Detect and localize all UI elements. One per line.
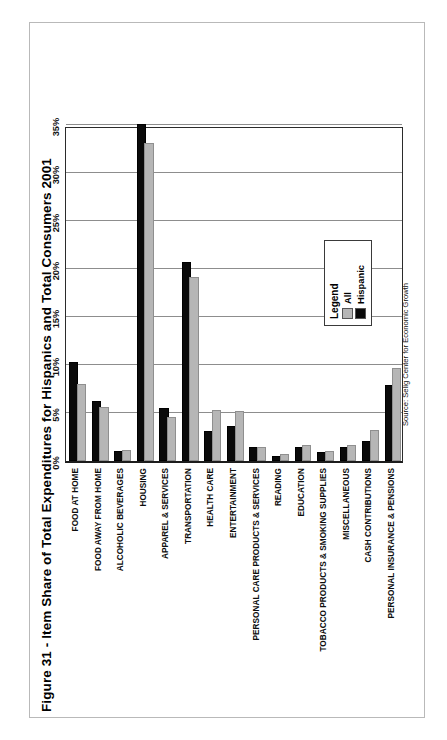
legend-title: Legend	[329, 247, 340, 319]
bar-group	[156, 128, 179, 461]
bar-all	[235, 411, 244, 461]
category-label: TOBACCO PRODUCTS & SMOKING SUPPLIES	[319, 468, 328, 652]
bar-all	[189, 277, 198, 461]
legend-item: Hispanic	[355, 247, 366, 319]
bar-group	[179, 128, 202, 461]
category-label: PERSONAL INSURANCE & PENSIONS	[387, 468, 396, 619]
bar-group	[134, 128, 157, 461]
x-tick-label: 5%	[51, 408, 61, 421]
x-tick-label: 20%	[51, 262, 61, 281]
category-label: ENTERTAINMENT	[229, 468, 238, 538]
bar-group	[246, 128, 269, 461]
category-label: TRANSPORTATION	[184, 468, 193, 544]
bar-group	[201, 128, 224, 461]
category-label: PERSONAL CARE PRODUCTS & SERVICES	[252, 468, 261, 640]
rotated-figure-stage: Figure 31 - Item Share of Total Expendit…	[29, 22, 425, 718]
x-tick-label: 10%	[51, 358, 61, 377]
bar-group	[291, 128, 314, 461]
x-axis-tick-labels: 0%5%10%15%20%25%30%35%	[51, 127, 64, 463]
bar-all	[257, 447, 266, 461]
bar-all	[347, 445, 356, 461]
category-label: EDUCATION	[297, 468, 306, 517]
bar-all	[122, 450, 131, 461]
bar-all	[99, 407, 108, 461]
bar-group	[111, 128, 134, 461]
category-label: READING	[274, 468, 283, 506]
bar-all	[302, 445, 311, 461]
gridline	[66, 124, 402, 125]
bar-all	[280, 454, 289, 461]
bar-all	[325, 451, 334, 461]
category-label: ALCOHOLIC BEVERAGES	[116, 468, 125, 571]
category-label: FOOD AWAY FROM HOME	[94, 468, 103, 571]
category-label: CASH CONTRIBUTIONS	[364, 468, 373, 563]
x-tick-label: 35%	[51, 118, 61, 137]
bar-group	[269, 128, 292, 461]
x-tick-label: 15%	[51, 310, 61, 329]
x-tick-label: 30%	[51, 166, 61, 185]
source-note: Source: Selig Center for Economic Growth	[401, 283, 410, 426]
x-tick-label: 0%	[51, 456, 61, 469]
legend-items: AllHispanic	[342, 247, 366, 319]
legend-label: All	[342, 292, 353, 304]
bar-all	[212, 410, 221, 461]
category-label: APPAREL & SERVICES	[161, 468, 170, 559]
bar-group	[66, 128, 89, 461]
bar-group	[89, 128, 112, 461]
category-label: FOOD AT HOME	[71, 468, 80, 531]
category-label: HOUSING	[139, 468, 148, 507]
legend-label: Hispanic	[355, 265, 366, 304]
category-label: MISCELLANEOUS	[342, 468, 351, 540]
category-axis-labels: FOOD AT HOMEFOOD AWAY FROM HOMEALCOHOLIC…	[65, 468, 403, 718]
legend-swatch-icon	[342, 308, 353, 319]
x-tick-label: 25%	[51, 214, 61, 233]
bar-all	[167, 417, 176, 461]
legend-swatch-icon	[355, 308, 366, 319]
bar-all	[144, 143, 153, 461]
bar-all	[77, 384, 86, 461]
bar-all	[370, 430, 379, 461]
legend-item: All	[342, 247, 353, 319]
legend-box: Legend AllHispanic	[324, 240, 372, 326]
bar-group	[224, 128, 247, 461]
category-label: HEALTH CARE	[206, 468, 215, 527]
